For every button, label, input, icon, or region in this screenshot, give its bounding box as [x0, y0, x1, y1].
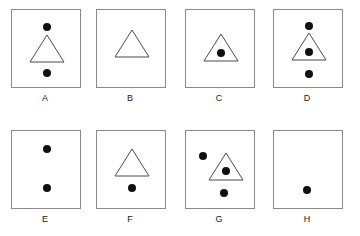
panel-box-d	[273, 9, 343, 88]
puzzle-panel-h: H	[262, 121, 352, 236]
dot-icon	[43, 184, 51, 192]
panel-box-e	[11, 130, 81, 209]
triangle-icon	[114, 148, 150, 177]
panel-figure-c	[186, 10, 256, 89]
panel-figure-h	[274, 131, 344, 210]
puzzle-grid: ABCDEFGH	[0, 0, 360, 236]
panel-figure-d	[274, 10, 344, 89]
dot-icon	[199, 152, 207, 160]
triangle-icon	[114, 29, 150, 58]
dot-icon	[43, 23, 51, 31]
panel-box-b	[96, 9, 166, 88]
panel-figure-b	[97, 10, 167, 89]
panel-box-h	[273, 130, 343, 209]
panel-label-c: C	[174, 92, 264, 104]
panel-figure-f	[97, 131, 167, 210]
puzzle-panel-f: F	[85, 121, 175, 236]
dot-icon	[43, 69, 51, 77]
dot-icon	[43, 145, 51, 153]
panel-figure-e	[12, 131, 82, 210]
panel-label-e: E	[0, 213, 90, 225]
panel-box-a	[11, 9, 81, 88]
panel-label-a: A	[0, 92, 90, 104]
panel-label-g: G	[174, 213, 264, 225]
triangle-icon	[291, 32, 327, 61]
puzzle-panel-d: D	[262, 0, 352, 118]
dot-icon	[303, 186, 311, 194]
triangle-icon	[203, 33, 239, 62]
dot-icon	[217, 49, 225, 57]
puzzle-panel-e: E	[0, 121, 90, 236]
puzzle-panel-c: C	[174, 0, 264, 118]
puzzle-panel-a: A	[0, 0, 90, 118]
dot-icon	[305, 48, 313, 56]
puzzle-panel-g: G	[174, 121, 264, 236]
dot-icon	[305, 70, 313, 78]
dot-icon	[222, 167, 230, 175]
panel-figure-a	[12, 10, 82, 89]
panel-box-f	[96, 130, 166, 209]
panel-box-g	[185, 130, 255, 209]
puzzle-panel-b: B	[85, 0, 175, 118]
dot-icon	[220, 189, 228, 197]
panel-figure-g	[186, 131, 256, 210]
panel-label-d: D	[262, 92, 352, 104]
dot-icon	[128, 184, 136, 192]
panel-box-c	[185, 9, 255, 88]
dot-icon	[305, 22, 313, 30]
panel-label-h: H	[262, 213, 352, 225]
panel-label-b: B	[85, 92, 175, 104]
panel-label-f: F	[85, 213, 175, 225]
triangle-icon	[29, 34, 65, 63]
